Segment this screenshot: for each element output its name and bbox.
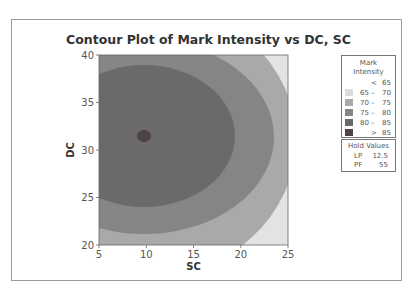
x-tick-15: 15 [187, 249, 200, 260]
y-tick-35: 35 [81, 97, 94, 108]
legend-item-75-80: 75 – 80 [345, 109, 393, 117]
swatch-80-85 [345, 119, 353, 126]
legend-item-65-70: 65 – 70 [345, 89, 393, 97]
swatch-70-75 [345, 99, 353, 106]
region-above-85 [137, 130, 151, 142]
swatch-65-70 [345, 89, 353, 96]
swatch-75-80 [345, 109, 353, 116]
legend-item-80-85: 80 – 85 [345, 119, 393, 127]
x-tick-20: 20 [234, 249, 247, 260]
hold-values-box: Hold Values LP 12.5 PF 55 [341, 139, 396, 172]
y-tick-20: 20 [81, 240, 94, 251]
y-tick-30: 30 [81, 145, 94, 156]
legend-item-below-65: < 65 [345, 79, 393, 87]
swatch-above-85 [345, 129, 353, 136]
y-axis-label: DC [65, 142, 76, 158]
x-axis-label: SC [186, 261, 201, 272]
x-tick-5: 5 [96, 249, 102, 260]
legend: Mark Intensity < 65 65 – 70 70 – 75 75 –… [341, 55, 396, 138]
y-tick-25: 25 [81, 192, 94, 203]
x-tick-25: 25 [282, 249, 295, 260]
y-tick-40: 40 [81, 50, 94, 61]
legend-item-above-85: > 85 [345, 129, 393, 137]
x-tick-10: 10 [140, 249, 153, 260]
hold-values-title: Hold Values [342, 142, 395, 151]
legend-title: Mark Intensity [342, 59, 395, 77]
legend-item-70-75: 70 – 75 [345, 99, 393, 107]
